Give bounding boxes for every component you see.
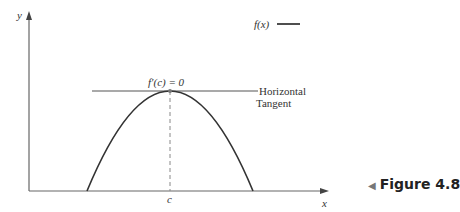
figure-caption-text: Figure 4.8 bbox=[380, 176, 460, 192]
derivative-annotation: f′(c) = 0 bbox=[148, 76, 185, 89]
max-point bbox=[168, 89, 172, 93]
y-axis-label: y bbox=[16, 9, 22, 21]
y-axis-arrow-icon bbox=[26, 11, 32, 20]
tangent-label-line2: Tangent bbox=[256, 97, 291, 109]
legend-label: f(x) bbox=[254, 18, 270, 31]
c-label: c bbox=[167, 193, 172, 205]
caption-triangle-icon: ◀ bbox=[368, 180, 376, 191]
x-axis-label: x bbox=[321, 197, 327, 209]
figure-caption: ◀Figure 4.8 bbox=[368, 176, 460, 192]
tangent-label-line1: Horizontal bbox=[259, 85, 306, 97]
x-axis-arrow-icon bbox=[320, 188, 329, 194]
